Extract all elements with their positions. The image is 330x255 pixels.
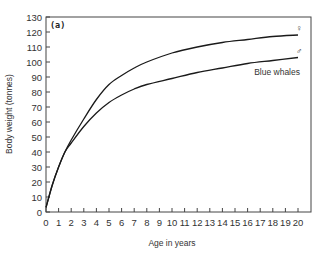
y-tick-label: 20 [31,177,42,188]
x-axis-title: Age in years [148,238,195,248]
y-axis-title: Body weight (tonnes) [4,74,14,154]
x-axis: 01234567891011121314151617181920 [43,208,303,228]
x-tick-label: 6 [119,217,124,228]
y-tick-label: 110 [27,42,42,53]
series-line-male [46,58,298,208]
female-symbol-icon: ♀ [296,23,302,33]
y-tick-label: 10 [31,192,42,203]
x-tick-label: 20 [293,217,304,228]
plot-border [46,17,311,212]
x-tick-label: 2 [69,217,74,228]
series-labels: ♀♂ [296,23,302,56]
x-tick-label: 3 [81,217,86,228]
plot-frame [46,17,311,212]
y-tick-label: 30 [31,162,42,173]
x-tick-label: 11 [180,217,190,228]
series-line-female [46,35,298,208]
y-tick-label: 90 [31,72,42,83]
x-tick-label: 12 [192,217,203,228]
y-tick-label: 70 [31,102,42,113]
x-tick-label: 19 [280,217,291,228]
species-annotation: Blue whales [254,67,300,77]
x-tick-label: 10 [167,217,178,228]
x-tick-label: 8 [144,217,149,228]
x-tick-label: 16 [242,217,253,228]
x-tick-label: 15 [230,217,241,228]
x-tick-label: 7 [132,217,137,228]
x-tick-label: 5 [106,217,111,228]
y-tick-label: 50 [31,132,42,143]
x-tick-label: 4 [94,217,99,228]
x-tick-label: 18 [268,217,279,228]
x-tick-label: 1 [56,217,61,228]
y-tick-label: 100 [26,57,42,68]
y-tick-label: 130 [26,12,42,23]
y-tick-label: 80 [31,87,42,98]
x-tick-label: 13 [205,217,216,228]
y-tick-label: 0 [37,207,42,218]
x-tick-label: 14 [217,217,228,228]
series-lines [46,35,298,208]
y-tick-label: 40 [31,147,42,158]
y-tick-label: 120 [26,27,42,38]
male-symbol-icon: ♂ [296,46,302,56]
x-tick-label: 17 [255,217,266,228]
growth-curve-chart: 0102030405060708090100110120130 01234567… [0,0,330,255]
y-tick-label: 60 [31,117,42,128]
x-tick-label: 0 [43,217,48,228]
x-tick-label: 9 [157,217,162,228]
panel-label: (a) [50,20,65,30]
